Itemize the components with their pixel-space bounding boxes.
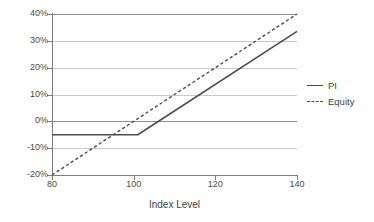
chart-legend: PI Equity — [307, 79, 371, 111]
series-line-equity — [52, 14, 297, 175]
legend-dashed-line-icon — [307, 98, 323, 106]
series-layer — [0, 0, 374, 222]
legend-item-equity: Equity — [307, 95, 371, 109]
x-axis-title: Index Level — [0, 199, 349, 210]
legend-item-label: PI — [328, 81, 337, 91]
series-line-pi — [52, 31, 297, 134]
legend-solid-line-icon — [307, 82, 323, 90]
legend-item-pi: PI — [307, 79, 371, 93]
legend-item-label: Equity — [328, 97, 354, 107]
chart-container: 40%30%20%10%0%-10%-20% 80100120140 Index… — [0, 0, 374, 222]
